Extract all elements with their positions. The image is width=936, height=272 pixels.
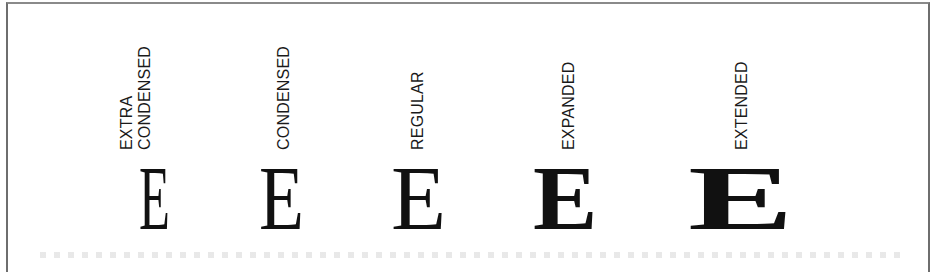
label-condensed: CONDENSED	[275, 46, 292, 150]
label-line: EXPANDED	[560, 62, 577, 150]
label-extra-condensed-line1: EXTRA	[118, 96, 135, 150]
cropped-caption-text	[40, 252, 900, 258]
label-extra-condensed: CONDENSED	[136, 46, 153, 150]
label-line: CONDENSED	[136, 46, 153, 150]
label-line: CONDENSED	[275, 46, 292, 150]
glyph-condensed: E	[259, 152, 304, 244]
label-regular: REGULAR	[409, 71, 426, 150]
glyph-expanded: E	[533, 152, 597, 244]
label-line: REGULAR	[409, 71, 426, 150]
glyph-extended: E	[688, 152, 794, 244]
glyph-extra-condensed: E	[139, 152, 170, 244]
label-expanded: EXPANDED	[560, 62, 577, 150]
glyph-regular: E	[391, 152, 446, 244]
label-line: EXTENDED	[733, 61, 750, 150]
label-extended: EXTENDED	[733, 61, 750, 150]
label-line: EXTRA	[118, 96, 135, 150]
